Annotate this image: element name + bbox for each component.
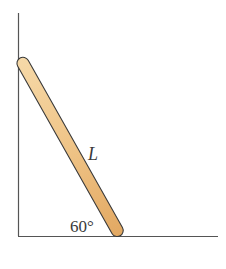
ladder: [15, 55, 126, 239]
length-label: L: [87, 144, 98, 164]
ladder-diagram: L 60°: [0, 0, 226, 269]
angle-label: 60°: [70, 217, 94, 236]
